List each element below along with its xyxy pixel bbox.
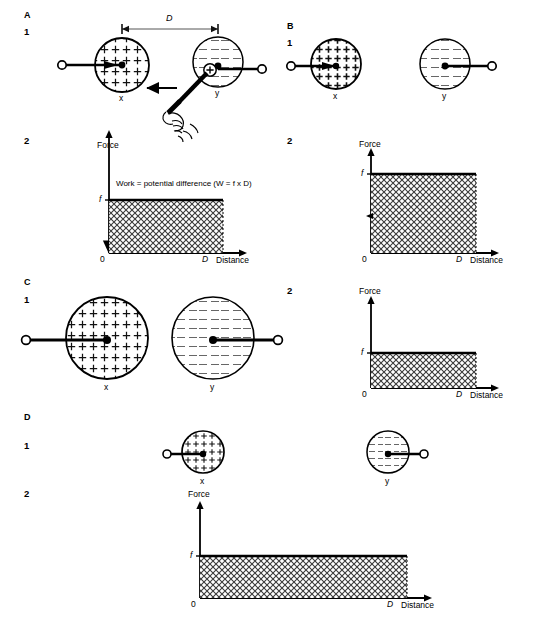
sphere-x-label-A: x — [119, 94, 123, 103]
chart-A2-xlabel: Distance — [216, 256, 249, 265]
chart-C2-xlabel: Distance — [470, 391, 503, 400]
panel-B-row-2-number: 2 — [287, 136, 292, 146]
chart-A2-origin-label: 0 — [100, 255, 105, 264]
chart-B2-xlabel: Distance — [470, 256, 503, 265]
chart-A2 — [105, 130, 247, 257]
chart-D2-xlabel: Distance — [401, 601, 434, 610]
panel-letter-C: C — [24, 278, 31, 287]
sphere-x-B — [287, 39, 361, 89]
figure-canvas — [0, 0, 540, 636]
chart-C2-ylabel: Force — [359, 287, 381, 296]
chart-B2-ytick-f: f — [361, 169, 363, 178]
distance-dimension-A — [122, 24, 218, 34]
sphere-y-C — [172, 297, 282, 379]
hand-icon-A — [163, 112, 198, 142]
sphere-y-B — [420, 39, 496, 89]
panel-B-row-1-number: 1 — [287, 38, 292, 48]
chart-D2-origin-label: 0 — [191, 600, 196, 609]
chart-B2-ylabel: Force — [359, 140, 381, 149]
sphere-y-label-D: y — [385, 477, 389, 486]
chart-D2 — [196, 501, 432, 602]
sphere-y-A — [193, 37, 266, 87]
chart-C2-origin-label: 0 — [362, 390, 367, 399]
chart-A2-ytick-f: f — [99, 195, 101, 204]
panel-letter-A: A — [24, 11, 31, 20]
probe-rod-A — [168, 73, 207, 113]
chart-A2-ylabel: Force — [97, 141, 119, 150]
panel-letter-D: D — [24, 413, 31, 422]
sphere-x-label-B: x — [333, 92, 337, 101]
panel-C-row-1-number: 1 — [24, 295, 29, 305]
chart-A2-annotation: Work = potential difference (W = f x D) — [116, 180, 252, 188]
panel-D-row-1-number: 1 — [24, 441, 29, 451]
sphere-y-label-A: y — [215, 89, 219, 98]
sphere-x-label-D: x — [200, 477, 204, 486]
figure-root: A 1 D x y 2 Force Distance 0 f D Work = … — [0, 0, 540, 636]
sphere-x-C — [22, 297, 148, 379]
chart-D2-ylabel: Force — [188, 490, 210, 499]
panel-D-row-2-number: 2 — [24, 489, 29, 499]
chart-D2-ytick-f: f — [190, 551, 192, 560]
panel-A-diagram — [58, 24, 266, 142]
sphere-y-label-C: y — [210, 383, 214, 392]
sphere-x-A — [58, 38, 149, 92]
panel-A-row-1-number: 1 — [24, 27, 29, 37]
panel-B-diagram — [287, 39, 496, 89]
sphere-y-D — [367, 431, 428, 473]
panel-C-diagram — [22, 297, 283, 379]
sphere-x-D — [163, 431, 224, 473]
distance-label-A: D — [166, 14, 173, 23]
sphere-y-label-B: y — [442, 92, 446, 101]
chart-C2 — [367, 296, 499, 392]
chart-C2-xtick-D: D — [456, 390, 462, 399]
panel-C-row-2-number: 2 — [287, 286, 292, 296]
panel-A-row-2-number: 2 — [24, 136, 29, 146]
chart-A2-xtick-D: D — [202, 255, 208, 264]
panel-D-diagram — [163, 431, 428, 473]
chart-B2 — [366, 148, 499, 257]
panel-letter-B: B — [287, 22, 294, 31]
sphere-x-label-C: x — [104, 383, 108, 392]
chart-C2-ytick-f: f — [361, 348, 363, 357]
chart-B2-origin-label: 0 — [362, 255, 367, 264]
chart-B2-xtick-D: D — [456, 255, 462, 264]
chart-D2-xtick-D: D — [387, 600, 393, 609]
